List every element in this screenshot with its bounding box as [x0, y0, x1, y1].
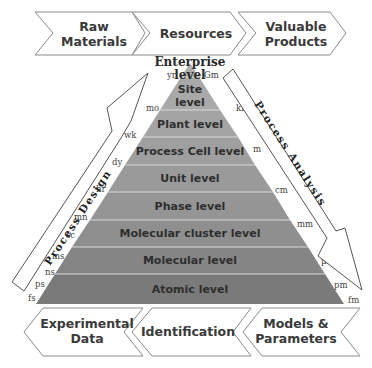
- time-label: dy: [112, 157, 122, 167]
- level-label: Process Cell level: [136, 145, 245, 158]
- chevron-label-line1: Raw: [79, 19, 109, 34]
- chevron-label-line2: Materials: [61, 34, 127, 49]
- level-label: Molecular cluster level: [120, 227, 261, 240]
- chevron-label: Identification: [141, 324, 235, 339]
- chevron-label-line2: Data: [70, 331, 103, 346]
- enterprise-label: Enterprise: [154, 55, 225, 69]
- chevron-experimental-data: Experimental Data: [24, 308, 143, 356]
- length-label: fm: [348, 295, 359, 305]
- level-label: Plant level: [157, 118, 223, 131]
- level-label: Phase level: [155, 200, 226, 213]
- length-label: mm: [297, 219, 313, 229]
- multiscale-diagram: Raw Materials Resources Valuable Product…: [0, 0, 372, 368]
- chevron-label-line1: Models &: [263, 316, 329, 331]
- level-label: Unit level: [160, 172, 219, 185]
- time-label: mo: [146, 103, 159, 113]
- level-label: Site: [178, 83, 202, 96]
- time-label: ps: [35, 279, 45, 289]
- chevron-label-line2: Parameters: [255, 331, 336, 346]
- chevron-label-line2: Products: [265, 34, 328, 49]
- chevron-valuable-products: Valuable Products: [238, 12, 346, 55]
- chevron-label-line1: Valuable: [266, 19, 327, 34]
- chevron-label: Resources: [160, 26, 233, 41]
- chevron-raw-materials: Raw Materials: [35, 12, 145, 55]
- chevron-models-parameters: Models & Parameters: [243, 308, 360, 356]
- bottom-flow: Experimental Data Identification Models …: [24, 308, 360, 356]
- time-label: fs: [28, 293, 36, 303]
- enterprise-label-line2: level: [174, 68, 206, 82]
- length-label: m: [253, 144, 261, 154]
- level-label: Molecular level: [143, 254, 237, 267]
- time-label: ns: [45, 267, 55, 277]
- top-flow: Raw Materials Resources Valuable Product…: [35, 12, 346, 55]
- chevron-label-line1: Experimental: [40, 316, 134, 331]
- length-label: Gm: [204, 70, 219, 80]
- length-label: cm: [275, 185, 288, 195]
- time-label: yr: [166, 70, 177, 80]
- level-label: Atomic level: [152, 283, 229, 296]
- length-label: pm: [334, 280, 348, 290]
- chevron-resources: Resources: [132, 12, 246, 55]
- chevron-identification: Identification: [132, 308, 251, 356]
- time-label: wk: [124, 130, 137, 140]
- level-label: level: [175, 96, 205, 109]
